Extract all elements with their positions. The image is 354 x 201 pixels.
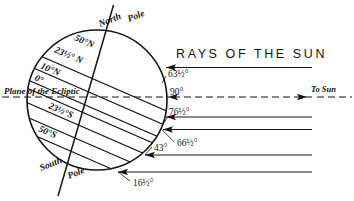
- south-pole-label-pole: Pole: [66, 165, 87, 181]
- sun-ray-2-ecliptic: [168, 94, 352, 101]
- diagram-canvas: 50°N 23½° N 10°N 0° 23½°S 50°S North Pol…: [0, 0, 354, 201]
- earth-globe-outline: [27, 30, 167, 170]
- lat-50n-label: 50°N: [73, 33, 97, 51]
- sun-ray-5: [145, 152, 312, 159]
- angle-43-label: 43°: [154, 143, 168, 153]
- north-pole-label-pole: Pole: [126, 8, 147, 24]
- parallel-50n: [20, 47, 180, 117]
- sun-ray-6: [118, 169, 312, 176]
- earth-sun-rays-diagram: 50°N 23½° N 10°N 0° 23½°S 50°S North Pol…: [0, 0, 354, 201]
- to-sun-label: To Sun: [311, 84, 336, 94]
- figure-title: RAYS OF THE SUN: [176, 47, 327, 61]
- sun-ray-4: [163, 126, 312, 133]
- angle-63-5-label: 63½°: [168, 69, 189, 79]
- angle-66-5-label: 66½°: [177, 138, 198, 148]
- angle-76-5-label: 76½°: [169, 107, 190, 117]
- angle-90-label: 90°: [170, 87, 184, 97]
- leader-lines-group: [118, 76, 174, 181]
- leader-66-5: [162, 130, 174, 143]
- plane-of-ecliptic-label: Plane of the Ecliptic: [4, 86, 80, 96]
- north-pole-label-north: North: [96, 11, 122, 29]
- south-pole-label-south: South: [38, 155, 63, 173]
- earth-axis: [58, 5, 114, 196]
- angle-16-5-label: 16½°: [133, 178, 154, 188]
